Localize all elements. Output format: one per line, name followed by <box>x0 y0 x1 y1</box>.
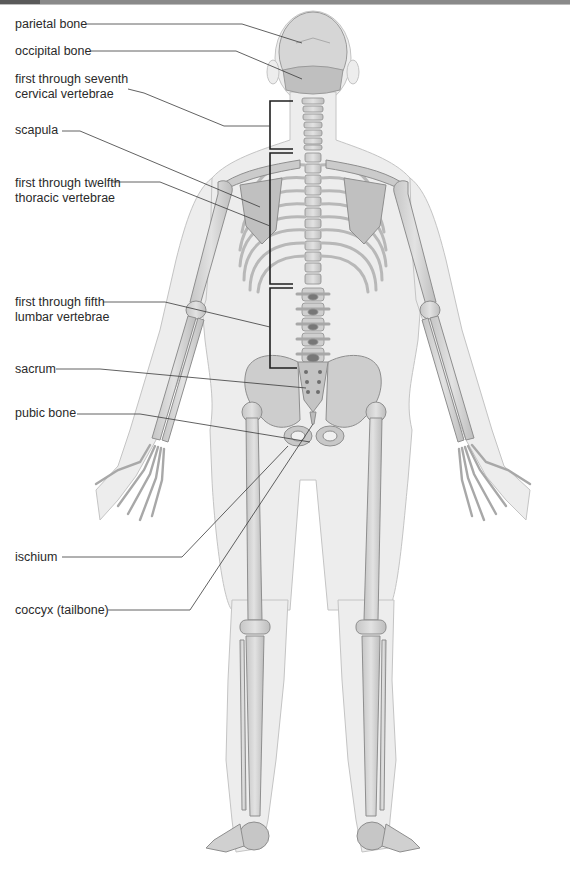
label-cervical-vertebrae: first through seventh cervical vertebrae <box>15 72 128 102</box>
skeleton-figure <box>0 0 570 874</box>
label-coccyx: coccyx (tailbone) <box>15 603 109 618</box>
label-ischium: ischium <box>15 550 57 565</box>
label-parietal-bone: parietal bone <box>15 17 87 32</box>
label-thoracic-vertebrae: first through twelfth thoracic vertebrae <box>15 176 121 206</box>
label-pubic-bone: pubic bone <box>15 406 76 421</box>
label-scapula: scapula <box>15 123 58 138</box>
foot-bones <box>206 822 420 852</box>
skull <box>279 12 347 94</box>
label-occipital-bone: occipital bone <box>15 44 91 59</box>
label-sacrum: sacrum <box>15 362 56 377</box>
label-lumbar-vertebrae: first through fifth lumbar vertebrae <box>15 295 110 325</box>
